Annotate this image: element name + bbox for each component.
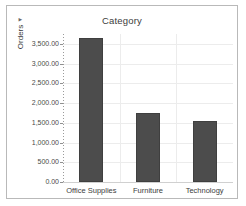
x-tick-label[interactable]: Furniture — [120, 186, 177, 195]
x-tick-label[interactable]: Office Supplies — [63, 186, 120, 195]
x-axis-ticks: Office SuppliesFurnitureTechnology — [7, 6, 237, 198]
x-tick-label[interactable]: Technology — [176, 186, 233, 195]
chart-frame: Category Orders▼ 0.00500.001,000.001,500… — [6, 5, 238, 199]
